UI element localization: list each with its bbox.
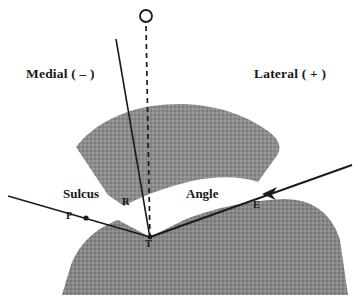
region-label-angle: Angle <box>186 186 219 202</box>
point-label-r: R <box>122 196 130 207</box>
patella-shape <box>76 104 280 206</box>
sulcus-angle-figure: Medial ( – ) Lateral ( + ) Sulcus Angle … <box>0 0 358 307</box>
orientation-label-medial: Medial ( – ) <box>26 66 95 82</box>
point-o-marker <box>140 10 152 22</box>
point-label-e: E <box>253 199 260 210</box>
orientation-label-lateral: Lateral ( + ) <box>254 66 326 82</box>
region-label-sulcus: Sulcus <box>63 186 99 202</box>
figure-graphic <box>0 0 358 307</box>
femoral-condyles-shape <box>62 199 348 295</box>
point-label-p: P <box>66 210 72 221</box>
point-label-t: T <box>145 238 152 249</box>
point-p-marker <box>83 215 88 220</box>
